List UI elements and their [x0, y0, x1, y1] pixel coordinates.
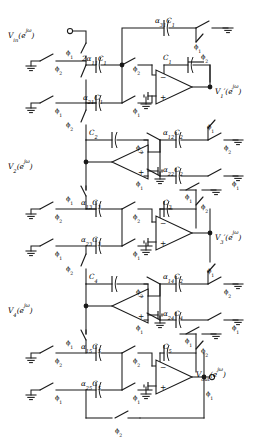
cap-label-a12c2: α12C2 [163, 120, 183, 140]
phase-label-phi1-s2c: ϕ1 [232, 171, 239, 191]
phase-label-phi2-s1b: ϕ2 [133, 56, 140, 76]
phase-label-phi2-s3b: ϕ2 [133, 204, 140, 224]
phase-label-phi1-s5b: ϕ1 [185, 328, 192, 348]
cap-label-c4: C4 [89, 264, 98, 284]
phase-label-phi2-s3a: ϕ2 [55, 204, 62, 224]
phase-label-phi1-s4a: ϕ1 [207, 258, 214, 278]
phase-label-phi2-s5c: ϕ2 [201, 338, 208, 358]
phase-label-phi2-s5a: ϕ2 [55, 348, 62, 368]
cap-label-c1: C1 [163, 45, 172, 65]
cap-label-a23c3: α23C3 [81, 227, 101, 247]
label-v2: V2(ejω) [8, 154, 33, 174]
phase-label-phi1-s2a: ϕ1 [207, 114, 214, 134]
cap-label-c2: C2 [89, 120, 98, 140]
cap-label-a15c5: α15C5 [81, 334, 101, 354]
opamp-3-plus: + [160, 239, 166, 248]
phase-label-phi1-s1c: ϕ1 [55, 98, 62, 118]
phase-label-phi2-s4b: ϕ2 [136, 279, 143, 299]
phase-label-phi2-s4a: ϕ2 [66, 256, 73, 276]
cap-label-a14c2: α14C2 [163, 264, 183, 284]
phase-label-phi2-s5b: ϕ2 [133, 348, 140, 368]
cap-label-a24c4: α24C4 [163, 301, 183, 321]
cap-label-a22c2: α22C2 [163, 157, 183, 177]
label-v3: V3′(ejω) [215, 225, 241, 245]
label-vin: Vin(ejω) [8, 23, 34, 43]
phase-label-phi2-s2a: ϕ2 [66, 112, 73, 132]
opamp-1-plus: + [160, 93, 166, 102]
cap-label-a31c1: α31C1 [155, 8, 175, 28]
phase-label-phi1-fb: ϕ1 [206, 381, 213, 401]
cap-label-c3: C3 [163, 190, 172, 210]
label-vout: Vout(ejω) [196, 362, 226, 382]
phase-label-phi1-s1d: ϕ1 [133, 98, 140, 118]
phase-label-phi1-s5c: ϕ1 [55, 385, 62, 405]
cap-label-a25c5: α25C5 [81, 371, 101, 391]
opamp-3-minus: − [160, 219, 166, 228]
opamp-5-minus: − [160, 363, 166, 372]
phase-label-phi2-s1a: ϕ2 [55, 56, 62, 76]
cap-label-c5: C5 [163, 334, 172, 354]
input-terminal[interactable] [67, 28, 72, 33]
cap-label-a13c3: α13C3 [81, 190, 101, 210]
label-v1: V1′(ejω) [215, 79, 241, 99]
phase-label-phi1-s4c: ϕ1 [232, 315, 239, 335]
phase-label-phi1-s3b: ϕ1 [185, 184, 192, 204]
cap-label-a21c1: α21C1 [83, 85, 103, 105]
phase-label-phi2-fb: ϕ2 [115, 418, 122, 438]
phase-label-phi1-s5d: ϕ1 [133, 385, 140, 405]
phase-label-phi2-s2b: ϕ2 [136, 135, 143, 155]
opamp-5-plus: + [160, 383, 166, 392]
phase-label-phi1-s4b: ϕ1 [136, 315, 143, 335]
label-v4: V4(ejω) [8, 298, 33, 318]
phase-label-phi2-s4c: ϕ2 [224, 279, 231, 299]
opamp-1-minus: − [160, 73, 166, 82]
cap-label-2a11c1: 2α11C1 [82, 46, 107, 66]
phase-label-phi1-s3a: ϕ1 [66, 186, 73, 206]
phase-label-phi1-s3c: ϕ1 [55, 241, 62, 261]
phase-label-phi1-s3d: ϕ1 [133, 241, 140, 261]
stage-2: − + [81, 103, 243, 190]
stage-4: − + [81, 246, 243, 334]
phase-label-phi2-s3c: ϕ2 [201, 194, 208, 214]
schematic-figure: − + [0, 0, 256, 444]
phase-label-phi1-s2b: ϕ1 [136, 171, 143, 191]
phase-label-phi1-s1a: ϕ1 [66, 40, 73, 60]
phase-label-phi1-s5a: ϕ1 [66, 330, 73, 350]
phase-label-phi2-s1c: ϕ2 [201, 44, 208, 64]
phase-label-phi2-s2c: ϕ2 [224, 135, 231, 155]
